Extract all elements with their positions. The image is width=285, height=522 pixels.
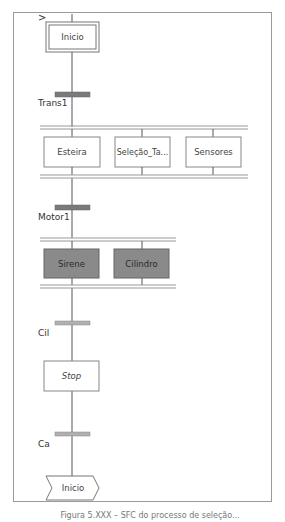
step-sensores-label: Sensores (186, 137, 241, 167)
transition-bar-motor1[interactable] (55, 205, 90, 210)
step-selecao-label: Seleção_Ta... (115, 137, 170, 167)
jump-label: Inicio (50, 476, 96, 500)
transition-bar-cil[interactable] (55, 321, 90, 325)
transition-label-cil: Cil (38, 328, 49, 338)
step-esteira-label: Esteira (44, 137, 100, 167)
transition-label-motor1: Motor1 (38, 212, 70, 222)
transition-label-trans1: Trans1 (38, 98, 68, 108)
transition-bar-trans1[interactable] (55, 92, 90, 97)
transition-label-ca: Ca (38, 439, 50, 449)
transition-bar-ca[interactable] (55, 432, 90, 436)
entry-marker-icon: > (38, 12, 46, 23)
step-stop-label: Stop (44, 361, 99, 391)
initial-step-label: Inicio (49, 25, 96, 49)
step-cilindro-label: Cilindro (114, 249, 169, 278)
step-sirene-label: Sirene (44, 249, 99, 278)
figure-caption: Figura 5.XXX – SFC do processo de seleçã… (40, 511, 260, 520)
